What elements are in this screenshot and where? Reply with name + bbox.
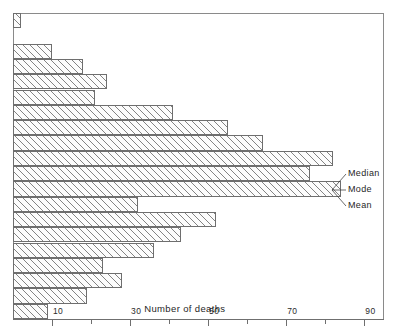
- x-tick-minor: [247, 319, 248, 324]
- bar: [13, 13, 21, 28]
- annotation-mean-label: Mean: [348, 200, 372, 210]
- x-tick: [52, 319, 53, 326]
- bar: [13, 227, 181, 242]
- x-tick: [208, 319, 209, 326]
- x-tick-label: 30: [131, 306, 141, 316]
- x-tick: [286, 319, 287, 326]
- annotation-median-label: Median: [348, 168, 380, 178]
- x-tick-minor: [169, 319, 170, 324]
- x-tick-label: 70: [287, 306, 297, 316]
- bar: [13, 166, 310, 181]
- bar: [13, 59, 83, 74]
- x-axis-line: [13, 319, 384, 320]
- x-tick-minor: [325, 319, 326, 324]
- bar: [13, 135, 263, 150]
- x-tick-minor: [91, 319, 92, 324]
- bar: [13, 181, 341, 196]
- bar: [13, 243, 154, 258]
- annotation-mode-label: Mode: [348, 184, 372, 194]
- bar: [13, 273, 122, 288]
- bar: [13, 74, 107, 89]
- bar: [13, 90, 95, 105]
- x-tick-label: 90: [365, 306, 375, 316]
- bar: [13, 258, 103, 273]
- bar: [13, 44, 52, 59]
- bar: [13, 304, 48, 319]
- histogram-chart: 1030507090 Number of deaths Median Mode …: [0, 0, 398, 332]
- bar-series: [13, 13, 384, 319]
- x-tick: [130, 319, 131, 326]
- bar: [13, 197, 138, 212]
- bar: [13, 212, 216, 227]
- bar: [13, 105, 173, 120]
- x-axis-title: Number of deaths: [144, 303, 225, 314]
- bar: [13, 288, 87, 303]
- x-tick: [364, 319, 365, 326]
- bar: [13, 151, 333, 166]
- x-tick-label: 10: [53, 306, 63, 316]
- bar: [13, 120, 228, 135]
